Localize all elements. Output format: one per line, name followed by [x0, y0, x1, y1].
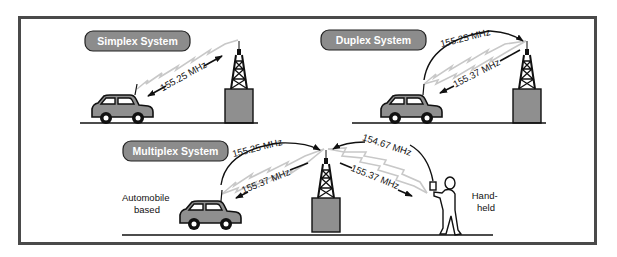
simplex-title: Simplex System: [97, 35, 178, 47]
duplex-title: Duplex System: [336, 34, 411, 46]
radio-systems-diagram: Simplex System 155.25 MHz Duplex System …: [0, 0, 617, 257]
automobile-label-line2: based: [134, 204, 160, 215]
automobile-label-line1: Automobile: [122, 192, 170, 203]
handheld-label-line1: Hand-: [472, 190, 498, 201]
multiplex-title: Multiplex System: [133, 145, 219, 157]
handheld-label-line2: held: [477, 202, 495, 213]
